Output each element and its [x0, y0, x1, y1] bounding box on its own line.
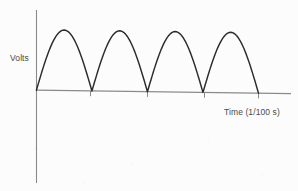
- rectified-sine-wave-figure: Volts Time (1/100 s): [0, 0, 298, 191]
- y-axis-label: Volts: [10, 53, 29, 63]
- waveform-plot-area: [0, 0, 298, 191]
- x-axis-label: Time (1/100 s): [224, 107, 280, 117]
- x-axis-line: [36, 90, 291, 93]
- rectified-sine-curve: [36, 30, 258, 93]
